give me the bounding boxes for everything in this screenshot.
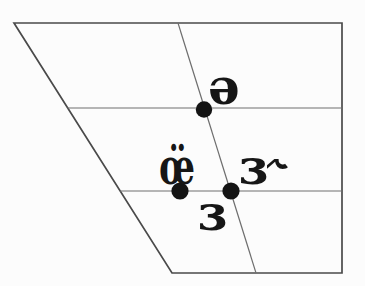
label-rhotic-er: ɜ˞ <box>239 137 288 196</box>
vowel-quadrilateral-svg: ə œ̈ ɜ˞ ɜ <box>0 0 365 286</box>
label-schwa: ə <box>208 57 240 116</box>
label-open-mid-central: ɜ <box>198 183 226 242</box>
label-oe-diaeresis: œ̈ <box>159 137 195 196</box>
vowel-chart-figure: ə œ̈ ɜ˞ ɜ <box>0 0 365 286</box>
